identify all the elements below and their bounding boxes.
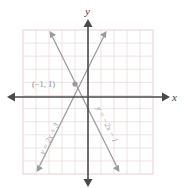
line-y-equals-minus-2x-minus-1 <box>50 31 120 172</box>
intersection-point-marker <box>72 81 77 86</box>
equation-label-line-2: y = −2x − 1 <box>94 104 120 144</box>
intersection-point-label: (−1, 1) <box>32 79 55 89</box>
graph-screenshot: y x (−1, 1) y = 2x + 3 y = −2x − 1 <box>0 0 184 188</box>
coordinate-plane-figure: y x (−1, 1) y = 2x + 3 y = −2x − 1 <box>0 0 184 188</box>
y-axis-label: y <box>84 5 90 17</box>
x-axis-label: x <box>171 91 177 103</box>
